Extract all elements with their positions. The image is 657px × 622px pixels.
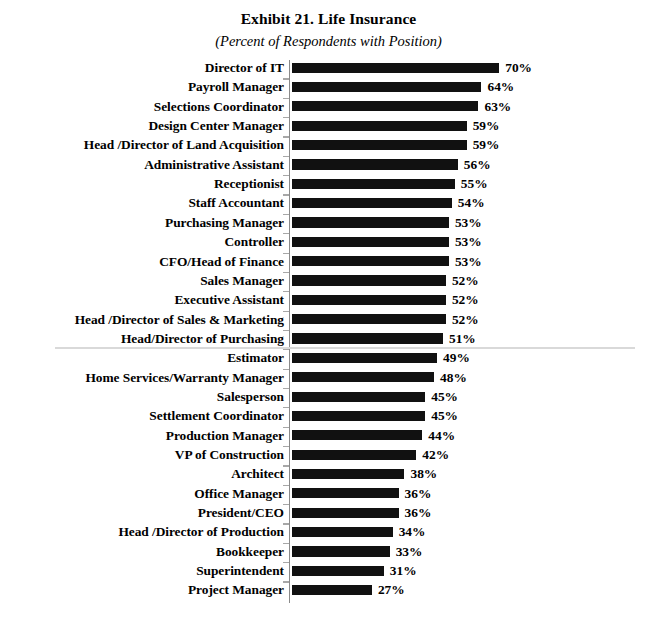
axis-tick <box>283 214 289 215</box>
bar-fill <box>292 392 425 402</box>
bar-fill <box>292 469 404 479</box>
bar-fill <box>292 314 446 324</box>
axis-tick <box>283 407 289 408</box>
bar-category-label: Design Center Manager <box>0 116 284 135</box>
bar-row: Head /Director of Sales & Marketing52% <box>0 310 657 329</box>
bar-category-label: Architect <box>0 464 284 483</box>
axis-tick <box>283 311 289 312</box>
bar-value-label: 64% <box>487 77 514 96</box>
bar-fill <box>292 198 452 208</box>
bar-fill <box>292 546 390 556</box>
bar-category-label: CFO/Head of Finance <box>0 252 284 271</box>
bar-value-label: 52% <box>452 271 479 290</box>
bar-category-label: Receptionist <box>0 174 284 193</box>
bar-category-label: Payroll Manager <box>0 77 284 96</box>
bar-fill <box>292 121 467 131</box>
bar-category-label: VP of Construction <box>0 445 284 464</box>
bar-fill <box>292 179 455 189</box>
bar-fill <box>292 527 393 537</box>
bar-value-label: 38% <box>410 464 437 483</box>
bar-category-label: Sales Manager <box>0 271 284 290</box>
axis-tick <box>283 117 289 118</box>
bar-value-label: 51% <box>449 329 476 348</box>
bar-fill <box>292 430 422 440</box>
bar-row: Project Manager27% <box>0 580 657 599</box>
axis-tick <box>283 369 289 370</box>
bar-row: Selections Coordinator63% <box>0 97 657 116</box>
bar-category-label: Director of IT <box>0 58 284 77</box>
bar-fill <box>292 353 437 363</box>
bar-row: Architect38% <box>0 464 657 483</box>
axis-tick <box>283 136 289 137</box>
axis-tick <box>283 156 289 157</box>
axis-tick <box>283 465 289 466</box>
bar-fill <box>292 275 446 285</box>
bar-value-label: 31% <box>390 561 417 580</box>
bar-value-label: 33% <box>396 542 423 561</box>
bar-value-label: 48% <box>440 368 467 387</box>
chart-figure: Exhibit 21. Life Insurance (Percent of R… <box>0 0 657 622</box>
bar-category-label: Estimator <box>0 348 284 367</box>
bar-value-label: 44% <box>428 426 455 445</box>
bar-row: Receptionist55% <box>0 174 657 193</box>
bar-row: Design Center Manager59% <box>0 116 657 135</box>
bar-row: Superintendent31% <box>0 561 657 580</box>
bar-fill <box>292 159 458 169</box>
bar-fill <box>292 140 467 150</box>
bar-category-label: Production Manager <box>0 426 284 445</box>
bar-value-label: 53% <box>455 213 482 232</box>
bar-fill <box>292 488 399 498</box>
axis-tick <box>283 543 289 544</box>
axis-tick <box>283 485 289 486</box>
bar-row: Director of IT70% <box>0 58 657 77</box>
bar-value-label: 49% <box>443 348 470 367</box>
axis-tick <box>283 78 289 79</box>
bar-value-label: 52% <box>452 290 479 309</box>
bar-category-label: Home Services/Warranty Manager <box>0 368 284 387</box>
bar-category-label: Controller <box>0 232 284 251</box>
bar-row: Head /Director of Land Acquisition59% <box>0 135 657 154</box>
bar-fill <box>292 256 449 266</box>
bar-fill <box>292 585 372 595</box>
bar-value-label: 53% <box>455 252 482 271</box>
chart-title: Exhibit 21. Life Insurance <box>0 10 657 28</box>
bar-fill <box>292 450 416 460</box>
bar-value-label: 53% <box>455 232 482 251</box>
bar-row: Sales Manager52% <box>0 271 657 290</box>
bar-category-label: Administrative Assistant <box>0 155 284 174</box>
bar-row: Bookkeeper33% <box>0 542 657 561</box>
bar-fill <box>292 508 399 518</box>
axis-tick <box>283 253 289 254</box>
axis-tick <box>283 562 289 563</box>
bar-value-label: 34% <box>399 522 426 541</box>
bar-row: VP of Construction42% <box>0 445 657 464</box>
axis-tick <box>283 523 289 524</box>
bar-row: Office Manager36% <box>0 484 657 503</box>
bar-fill <box>292 411 425 421</box>
chart-subtitle: (Percent of Respondents with Position) <box>0 32 657 50</box>
bar-row: Head /Director of Production34% <box>0 522 657 541</box>
bar-value-label: 45% <box>431 387 458 406</box>
bar-category-label: Superintendent <box>0 561 284 580</box>
bar-value-label: 36% <box>405 503 432 522</box>
axis-tick <box>283 272 289 273</box>
bar-fill <box>292 217 449 227</box>
bar-value-label: 63% <box>484 97 511 116</box>
bar-category-label: Project Manager <box>0 580 284 599</box>
axis-tick <box>283 388 289 389</box>
axis-tick <box>283 175 289 176</box>
bar-row: Home Services/Warranty Manager48% <box>0 368 657 387</box>
bar-row: Payroll Manager64% <box>0 77 657 96</box>
bar-value-label: 45% <box>431 406 458 425</box>
axis-tick <box>283 446 289 447</box>
bar-row: Salesperson45% <box>0 387 657 406</box>
bar-row: President/CEO36% <box>0 503 657 522</box>
bar-category-label: Head /Director of Sales & Marketing <box>0 310 284 329</box>
bar-category-label: President/CEO <box>0 503 284 522</box>
bar-row: Settlement Coordinator45% <box>0 406 657 425</box>
bar-value-label: 52% <box>452 310 479 329</box>
bar-value-label: 54% <box>458 193 485 212</box>
bar-row: Administrative Assistant56% <box>0 155 657 174</box>
bar-fill <box>292 237 449 247</box>
bar-category-label: Bookkeeper <box>0 542 284 561</box>
